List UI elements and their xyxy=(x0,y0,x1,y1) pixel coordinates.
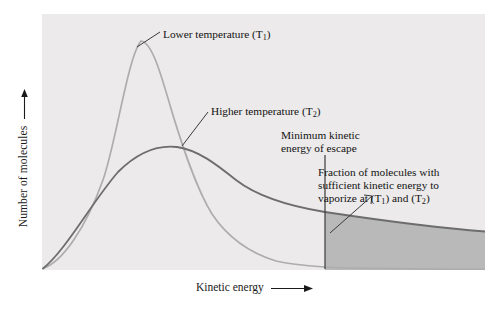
x-axis-label: Kinetic energy xyxy=(196,281,313,293)
annotation-lower-temperature-subscript: 1 xyxy=(263,33,267,42)
y-axis-label-text: Number of molecules xyxy=(17,126,29,228)
annotation-fraction-line3-b: ) and (T xyxy=(385,192,421,204)
leader-line-higher-temperature xyxy=(182,112,208,146)
annotation-fraction-line3: vaporize at (T1) and (T2) xyxy=(318,192,439,207)
annotation-fraction-line3-a: vaporize at (T xyxy=(318,192,381,204)
annotation-lower-temperature-tail: ) xyxy=(267,28,271,40)
x-axis-arrow-icon xyxy=(271,284,313,293)
annotation-minimum-energy-line2: energy of escape xyxy=(281,142,360,155)
annotation-fraction-sub2: 2 xyxy=(422,197,426,206)
annotation-fraction-line2: sufficient kinetic energy to xyxy=(318,179,439,192)
annotation-fraction-line3-c: ) xyxy=(426,192,430,204)
y-axis-label-group: Number of molecules xyxy=(0,0,40,310)
kinetic-energy-distribution-figure: Number of molecules Kinetic energy Lower… xyxy=(0,0,499,310)
annotation-higher-temperature-text: Higher temperature (T xyxy=(211,105,313,117)
annotation-fraction-line1: Fraction of molecules with xyxy=(318,166,439,179)
y-axis-label: Number of molecules xyxy=(17,88,29,228)
shaded-region-t2 xyxy=(325,212,485,270)
annotation-fraction-sub1: 1 xyxy=(381,197,385,206)
annotation-higher-temperature-subscript: 2 xyxy=(313,110,317,119)
annotation-lower-temperature: Lower temperature (T1) xyxy=(163,28,271,42)
annotation-minimum-energy-line1: Minimum kinetic xyxy=(281,129,360,142)
annotation-lower-temperature-text: Lower temperature (T xyxy=(163,28,263,40)
annotation-higher-temperature: Higher temperature (T2) xyxy=(211,105,320,119)
annotation-minimum-energy: Minimum kinetic energy of escape xyxy=(281,129,360,155)
y-axis-arrow-icon xyxy=(20,89,29,119)
annotation-higher-temperature-tail: ) xyxy=(317,105,321,117)
plot-svg xyxy=(0,0,499,310)
x-axis-label-text: Kinetic energy xyxy=(196,281,264,293)
annotation-fraction-escaping: Fraction of molecules with sufficient ki… xyxy=(318,166,439,206)
leader-line-lower-temperature xyxy=(137,32,160,47)
